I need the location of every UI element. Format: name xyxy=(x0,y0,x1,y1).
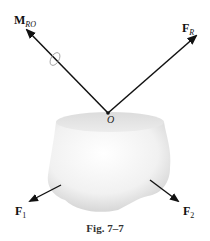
rigid-body xyxy=(48,122,171,212)
moment-label: MRO xyxy=(14,14,36,29)
figure-caption: Fig. 7–7 xyxy=(0,222,210,234)
origin-label: O xyxy=(107,114,114,125)
moment-vector xyxy=(27,30,108,113)
force1-label: F1 xyxy=(15,205,26,220)
resultant-force-vector xyxy=(108,36,196,113)
force2-label: F2 xyxy=(183,205,194,220)
figure-canvas xyxy=(0,0,210,241)
resultant-force-label: FR xyxy=(182,22,194,37)
